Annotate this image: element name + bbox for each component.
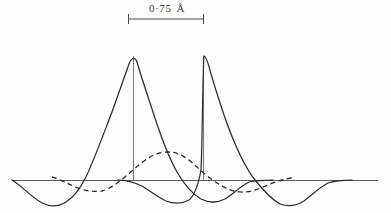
scale-bar-label: 0·75Å <box>129 2 205 14</box>
scale-bar <box>128 14 204 24</box>
figure-container: 0·75Å <box>0 0 391 213</box>
curve-resolved-atom-2 <box>118 56 352 206</box>
scale-bar-value: 0·75 <box>149 2 172 14</box>
curve-resolved-atom-1 <box>12 58 273 206</box>
scale-bar-unit: Å <box>177 2 186 14</box>
fourier-synthesis-plot <box>0 0 391 213</box>
